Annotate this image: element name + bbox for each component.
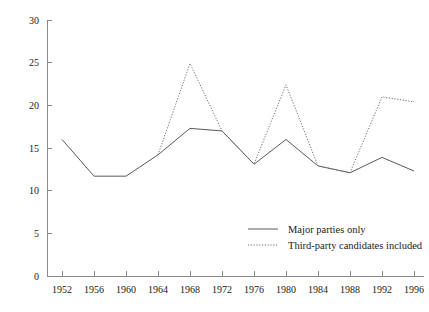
y-tick-label: 25 bbox=[29, 57, 39, 68]
x-tick-label: 1988 bbox=[340, 284, 360, 295]
x-tick-label: 1972 bbox=[212, 284, 232, 295]
chart-figure: 051015202530 195219561960196419681972197… bbox=[0, 0, 429, 312]
y-tick-label: 30 bbox=[29, 15, 39, 26]
y-tick-label: 0 bbox=[34, 271, 39, 282]
x-axis-ticks: 1952195619601964196819721976198019841988… bbox=[52, 271, 424, 295]
series-major-parties-only bbox=[62, 128, 414, 176]
x-tick-label: 1968 bbox=[180, 284, 200, 295]
x-tick-label: 1960 bbox=[116, 284, 136, 295]
y-tick-label: 5 bbox=[34, 228, 39, 239]
x-tick-label: 1976 bbox=[244, 284, 264, 295]
y-tick-label: 15 bbox=[29, 143, 39, 154]
x-tick-label: 1984 bbox=[308, 284, 328, 295]
y-axis-ticks: 051015202530 bbox=[29, 15, 52, 282]
line-chart-canvas: 051015202530 195219561960196419681972197… bbox=[0, 0, 429, 312]
x-tick-label: 1996 bbox=[404, 284, 424, 295]
x-tick-label: 1956 bbox=[84, 284, 104, 295]
legend-label: Third-party candidates included bbox=[288, 240, 423, 251]
x-tick-label: 1964 bbox=[148, 284, 168, 295]
x-tick-label: 1992 bbox=[372, 284, 392, 295]
x-tick-label: 1980 bbox=[276, 284, 296, 295]
series-third-party-included bbox=[158, 64, 414, 173]
chart-legend: Major parties onlyThird-party candidates… bbox=[248, 224, 423, 251]
y-tick-label: 20 bbox=[29, 100, 39, 111]
x-tick-label: 1952 bbox=[52, 284, 72, 295]
y-tick-label: 10 bbox=[29, 185, 39, 196]
legend-label: Major parties only bbox=[288, 224, 366, 235]
